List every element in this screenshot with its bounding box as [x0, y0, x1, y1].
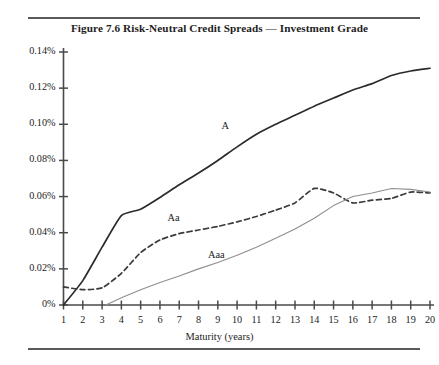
bottom-divider-rule: [28, 348, 420, 350]
series-group: [64, 68, 431, 305]
y-tick-label-1: 0.02%: [8, 262, 56, 273]
y-tick-label-2: 0.04%: [8, 226, 56, 237]
series-line-a: [64, 68, 431, 305]
figure-container: Figure 7.6 Risk-Neutral Credit Spreads —…: [0, 0, 439, 365]
series-line-aaa: [106, 188, 430, 305]
axes-group: [59, 48, 434, 310]
y-tick-label-4: 0.08%: [8, 153, 56, 164]
x-axis-title: Maturity (years): [0, 331, 439, 342]
y-tick-label-7: 0.14%: [8, 45, 56, 56]
series-label-aa: Aa: [167, 212, 179, 223]
y-tick-label-6: 0.12%: [8, 81, 56, 92]
series-label-a: A: [221, 120, 229, 131]
y-tick-label-5: 0.10%: [8, 117, 56, 128]
x-tick-label-19: 20: [419, 314, 439, 325]
chart-plot: [0, 0, 439, 365]
series-label-aaa: Aaa: [208, 249, 225, 260]
y-tick-label-0: 0%: [8, 298, 56, 309]
y-tick-label-3: 0.06%: [8, 190, 56, 201]
series-line-aa: [64, 188, 431, 289]
